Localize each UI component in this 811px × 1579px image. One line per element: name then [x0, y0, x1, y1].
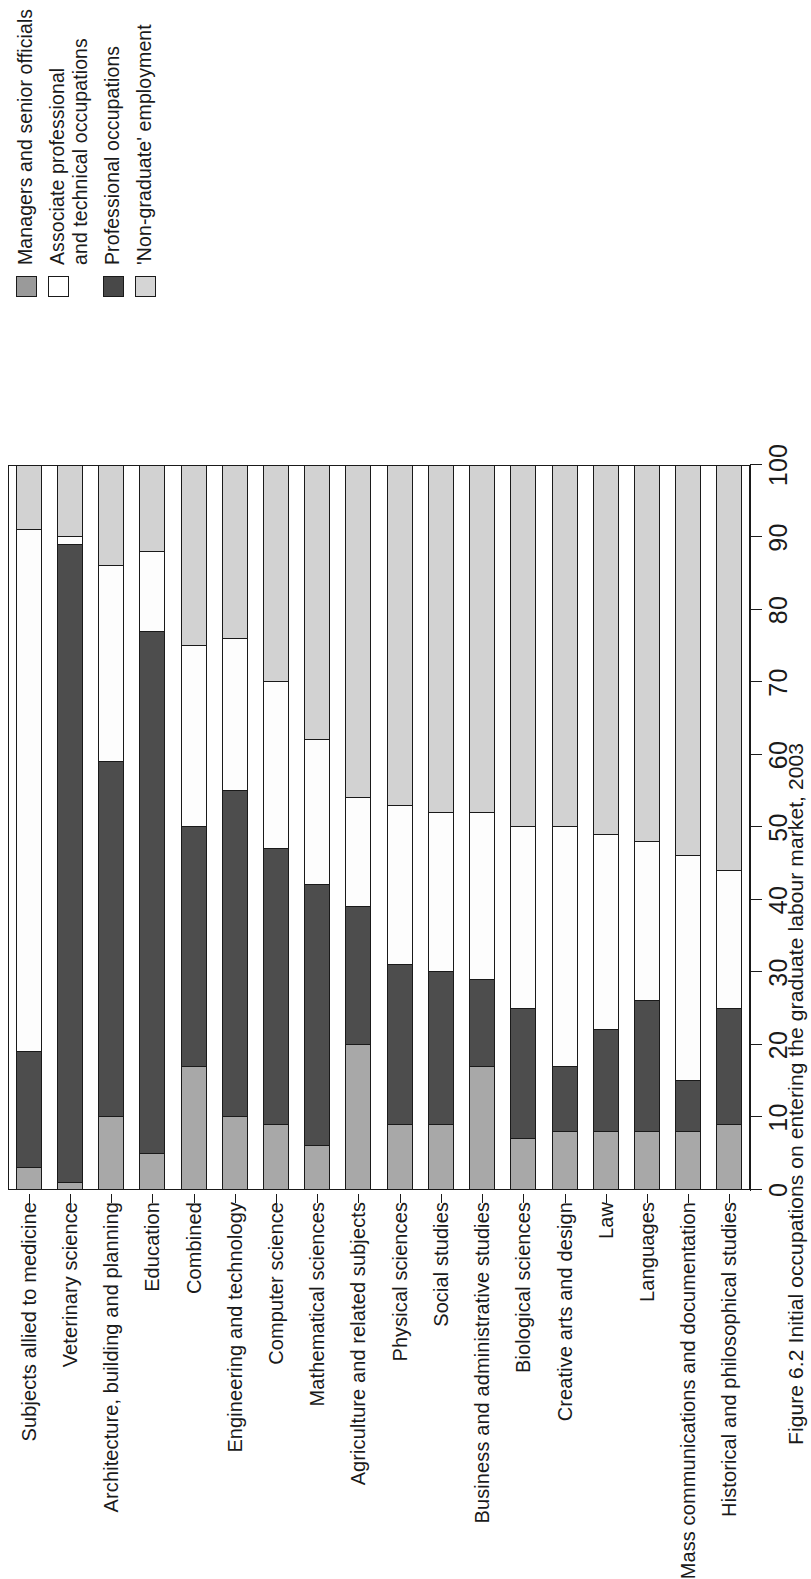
category-label: Architecture, building and planning: [100, 1202, 123, 1512]
bar-segment: [510, 465, 536, 828]
value-axis-tick: [750, 464, 762, 465]
legend-swatch-nongraduate-icon: [135, 276, 156, 297]
bar-segment: [181, 1067, 207, 1190]
bar-segment: [675, 1081, 701, 1132]
category-label: Historical and philosophical studies: [718, 1202, 741, 1517]
legend-swatch-managers-icon: [16, 276, 37, 297]
bar-segment: [139, 465, 165, 552]
value-axis-line: [750, 464, 751, 1191]
bar-1: [57, 465, 83, 1190]
bar-11: [469, 465, 495, 1190]
bar-segment: [16, 1168, 42, 1190]
bar-segment: [428, 813, 454, 973]
bar-segment: [139, 552, 165, 632]
figure-caption: Figure 6.2 Initial occupations on enteri…: [784, 743, 808, 1445]
category-label: Physical sciences: [388, 1202, 411, 1362]
bar-segment: [304, 465, 330, 741]
bar-segment: [304, 741, 330, 886]
category-label: Mass communications and documentation: [677, 1202, 700, 1579]
bar-segment: [222, 791, 248, 1117]
bar-6: [263, 465, 289, 1190]
category-label: Mathematical sciences: [306, 1202, 329, 1406]
bar-segment: [222, 639, 248, 791]
bar-segment: [428, 465, 454, 813]
bar-9: [387, 465, 413, 1190]
bar-segment: [98, 465, 124, 567]
bar-segment: [716, 871, 742, 1009]
bar-segment: [139, 632, 165, 1154]
bar-segment: [469, 1067, 495, 1190]
category-label: Subjects allied to medicine: [17, 1202, 40, 1442]
value-axis-tick: [750, 754, 762, 755]
bar-segment: [387, 1125, 413, 1190]
bar-3: [139, 465, 165, 1190]
value-axis-tick: [750, 682, 762, 683]
category-label: Engineering and technology: [223, 1202, 246, 1453]
bar-segment: [510, 828, 536, 1009]
bar-segment: [552, 465, 578, 828]
bar-17: [716, 465, 742, 1190]
bar-segment: [222, 1118, 248, 1191]
category-label: Computer science: [264, 1202, 287, 1365]
bar-segment: [16, 1052, 42, 1168]
bar-segment: [345, 907, 371, 1045]
bar-segment: [469, 980, 495, 1067]
bar-segment: [181, 646, 207, 827]
value-axis-tick-label: 70: [764, 668, 793, 696]
bar-8: [345, 465, 371, 1190]
bar-segment: [716, 465, 742, 871]
category-label: Biological sciences: [512, 1202, 535, 1373]
bar-segment: [716, 1125, 742, 1190]
legend-item-associate: Associate professional and technical occ…: [46, 7, 92, 297]
bar-segment: [345, 465, 371, 799]
bar-segment: [57, 465, 83, 538]
legend-item-nongraduate: 'Non-graduate' employment: [133, 7, 156, 297]
legend-label-associate: Associate professional and technical occ…: [46, 38, 92, 265]
legend-item-professional: Professional occupations: [101, 7, 124, 297]
bar-10: [428, 465, 454, 1190]
category-label: Agriculture and related subjects: [347, 1202, 370, 1485]
value-axis-tick-label: 100: [764, 444, 793, 487]
bar-segment: [304, 1147, 330, 1191]
bar-segment: [510, 1139, 536, 1190]
bar-4: [181, 465, 207, 1190]
category-label: Law: [594, 1202, 617, 1239]
bar-segment: [345, 1045, 371, 1190]
bar-segment: [675, 465, 701, 857]
chart-legend: Managers and senior officialsAssociate p…: [14, 7, 304, 297]
bar-15: [634, 465, 660, 1190]
value-axis-tick-label: 80: [764, 596, 793, 624]
bar-segment: [716, 1009, 742, 1125]
bar-14: [593, 465, 619, 1190]
bar-13: [552, 465, 578, 1190]
legend-label-nongraduate: 'Non-graduate' employment: [133, 24, 156, 265]
legend-swatch-associate-icon: [48, 276, 69, 297]
bar-segment: [181, 828, 207, 1067]
bar-segment: [634, 465, 660, 842]
value-axis-tick: [750, 609, 762, 610]
bar-segment: [428, 1125, 454, 1190]
value-axis-tick: [750, 972, 762, 973]
bar-segment: [139, 1154, 165, 1190]
value-axis-tick: [750, 1044, 762, 1045]
bar-segment: [263, 683, 289, 850]
category-label: Combined: [182, 1202, 205, 1294]
bar-segment: [428, 973, 454, 1125]
value-axis-tick: [750, 537, 762, 538]
bar-segment: [634, 842, 660, 1002]
bar-16: [675, 465, 701, 1190]
bar-12: [510, 465, 536, 1190]
bar-7: [304, 465, 330, 1190]
bar-segment: [387, 965, 413, 1125]
category-label: Education: [141, 1202, 164, 1292]
bar-segment: [387, 465, 413, 806]
value-axis-tick-label: 90: [764, 523, 793, 551]
bar-segment: [98, 1118, 124, 1191]
bar-segment: [675, 1132, 701, 1190]
category-label: Creative arts and design: [553, 1202, 576, 1421]
bar-segment: [222, 465, 248, 639]
value-axis-tick: [750, 1189, 762, 1190]
legend-swatch-professional-icon: [103, 276, 124, 297]
